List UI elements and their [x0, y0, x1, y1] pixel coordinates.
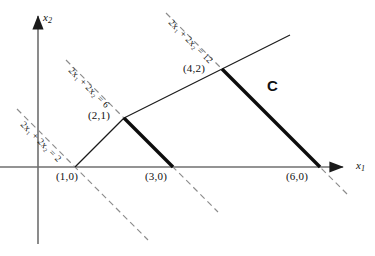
vertex-label-1-0: (1,0) — [56, 171, 78, 182]
vertex-label-6-0: (6,0) — [286, 171, 308, 182]
vertex-label-2-1: (2,1) — [88, 110, 110, 121]
edge-2-1-to-3-0 — [124, 118, 173, 167]
axis-label-x2: x2 — [43, 12, 52, 25]
constraint-ray-middle — [124, 69, 222, 118]
axis-label-x1: x1 — [356, 160, 365, 173]
region-label-c: C — [267, 78, 278, 93]
objective-line-2 — [17, 109, 148, 240]
constraint-ray-lower — [75, 118, 124, 167]
vertex-label-4-2: (4,2) — [183, 63, 205, 74]
vertex-label-3-0: (3,0) — [145, 171, 167, 182]
constraint-ray-upper-extension — [222, 35, 290, 69]
